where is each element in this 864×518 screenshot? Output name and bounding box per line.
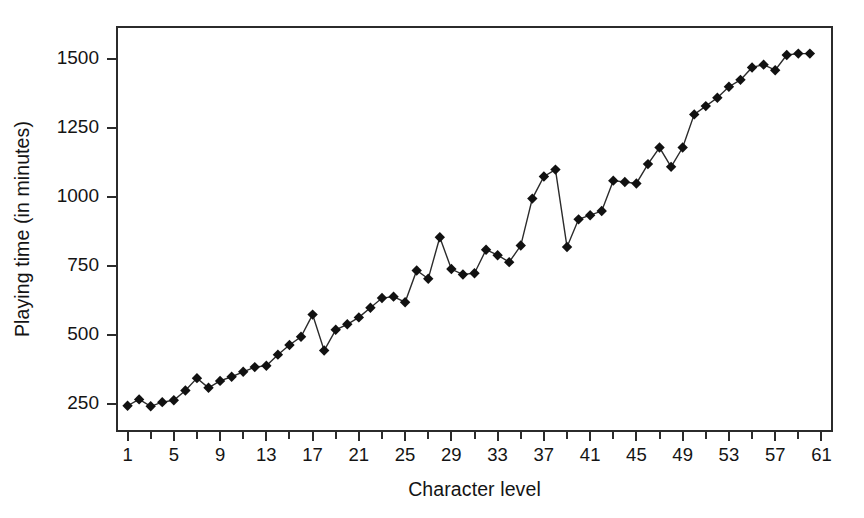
data-point <box>469 268 479 278</box>
data-point <box>458 269 468 279</box>
y-tick-mark <box>107 196 116 198</box>
x-tick-label: 61 <box>796 444 846 466</box>
x-tick-label: 57 <box>750 444 800 466</box>
x-tick-mark <box>497 432 499 441</box>
data-point <box>597 206 607 216</box>
x-minor-tick-mark <box>427 432 429 439</box>
x-tick-label: 17 <box>288 444 338 466</box>
data-point <box>296 332 306 342</box>
y-tick-mark <box>107 127 116 129</box>
x-minor-tick-mark <box>381 432 383 439</box>
data-point <box>654 142 664 152</box>
data-point <box>157 397 167 407</box>
x-tick-mark <box>358 432 360 441</box>
data-point <box>620 177 630 187</box>
data-point <box>677 142 687 152</box>
x-tick-mark <box>219 432 221 441</box>
data-point <box>388 291 398 301</box>
x-tick-label: 9 <box>195 444 245 466</box>
x-minor-tick-mark <box>797 432 799 439</box>
x-tick-mark <box>543 432 545 441</box>
x-tick-mark <box>173 432 175 441</box>
data-point <box>573 214 583 224</box>
x-tick-mark <box>682 432 684 441</box>
x-minor-tick-mark <box>242 432 244 439</box>
x-minor-tick-mark <box>196 432 198 439</box>
x-tick-label: 29 <box>426 444 476 466</box>
x-minor-tick-mark <box>335 432 337 439</box>
data-point <box>608 175 618 185</box>
x-minor-tick-mark <box>705 432 707 439</box>
data-point <box>550 164 560 174</box>
data-point <box>793 48 803 58</box>
y-tick-label: 250 <box>1 392 99 414</box>
data-point <box>226 372 236 382</box>
x-tick-mark <box>265 432 267 441</box>
x-tick-mark <box>728 432 730 441</box>
data-point <box>145 401 155 411</box>
y-tick-label: 750 <box>1 254 99 276</box>
x-tick-mark <box>127 432 129 441</box>
x-tick-label: 41 <box>565 444 615 466</box>
x-tick-label: 25 <box>380 444 430 466</box>
x-tick-mark <box>589 432 591 441</box>
x-tick-mark <box>774 432 776 441</box>
data-point <box>666 162 676 172</box>
data-point <box>481 245 491 255</box>
x-minor-tick-mark <box>288 432 290 439</box>
data-point <box>250 362 260 372</box>
data-point <box>758 59 768 69</box>
data-point <box>134 394 144 404</box>
x-tick-mark <box>635 432 637 441</box>
data-point <box>307 309 317 319</box>
y-tick-label: 1000 <box>1 185 99 207</box>
data-point <box>701 101 711 111</box>
data-point <box>446 264 456 274</box>
data-point <box>331 325 341 335</box>
x-minor-tick-mark <box>751 432 753 439</box>
y-tick-label: 1250 <box>1 116 99 138</box>
x-minor-tick-mark <box>612 432 614 439</box>
data-point <box>342 319 352 329</box>
y-tick-label: 1500 <box>1 47 99 69</box>
y-tick-mark <box>107 58 116 60</box>
data-point <box>400 297 410 307</box>
y-tick-mark <box>107 403 116 405</box>
x-minor-tick-mark <box>474 432 476 439</box>
x-tick-mark <box>820 432 822 441</box>
x-tick-mark <box>312 432 314 441</box>
y-axis-title: Playing time (in minutes) <box>0 26 44 432</box>
x-minor-tick-mark <box>520 432 522 439</box>
plot-canvas <box>116 26 833 432</box>
data-point <box>539 171 549 181</box>
data-point <box>504 257 514 267</box>
data-point <box>435 232 445 242</box>
x-tick-label: 21 <box>334 444 384 466</box>
x-axis-title: Character level <box>116 478 833 501</box>
data-point <box>319 345 329 355</box>
x-tick-label: 49 <box>658 444 708 466</box>
x-tick-mark <box>450 432 452 441</box>
x-tick-label: 33 <box>473 444 523 466</box>
x-tick-mark <box>404 432 406 441</box>
x-minor-tick-mark <box>150 432 152 439</box>
y-tick-label: 500 <box>1 323 99 345</box>
x-minor-tick-mark <box>659 432 661 439</box>
data-point <box>631 178 641 188</box>
data-point <box>643 159 653 169</box>
x-tick-label: 53 <box>704 444 754 466</box>
data-point <box>562 242 572 252</box>
data-point <box>238 367 248 377</box>
x-tick-label: 1 <box>103 444 153 466</box>
data-point <box>689 109 699 119</box>
chart-figure: Playing time (in minutes) 25050075010001… <box>0 0 864 518</box>
y-tick-mark <box>107 265 116 267</box>
x-minor-tick-mark <box>566 432 568 439</box>
data-point <box>492 250 502 260</box>
data-point <box>805 48 815 58</box>
x-tick-label: 5 <box>149 444 199 466</box>
data-point <box>215 376 225 386</box>
data-point <box>122 401 132 411</box>
data-point <box>527 193 537 203</box>
data-point <box>585 210 595 220</box>
